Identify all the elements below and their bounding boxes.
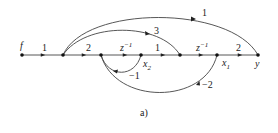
gain-n2-x2: z−1 [120, 42, 132, 53]
signal-flow-graph: f x2 x1 y 1 2 z−1 1 z−1 2 1 3 −1 −2 a) [0, 0, 278, 133]
node-label-x1: x1 [222, 58, 230, 71]
z-exponent: −1 [124, 41, 132, 49]
gain-n4-x1: z−1 [196, 42, 208, 53]
node-y [256, 53, 260, 57]
gain-x1-y: 2 [236, 43, 241, 53]
arc-x1-n2 [101, 55, 217, 93]
graph-canvas [0, 0, 278, 133]
node-x2 [139, 53, 143, 57]
z-exponent: −1 [200, 41, 208, 49]
x2-subscript: 2 [147, 64, 151, 72]
gain-n1-n4: 3 [154, 26, 159, 36]
node-label-f: f [20, 41, 23, 51]
gain-n1-y: 1 [202, 8, 207, 18]
arrow-icon [113, 70, 118, 74]
gain-n1-n2: 2 [86, 43, 91, 53]
node-label-y: y [255, 59, 259, 69]
arrow-icon [145, 31, 150, 36]
gain-f-n1: 1 [42, 43, 47, 53]
node-n4 [178, 53, 182, 57]
arc-n1-y [63, 18, 258, 56]
gain-x2-n2-feedback: −1 [129, 71, 140, 81]
gain-x2-n4: 1 [155, 43, 160, 53]
node-n2 [99, 53, 103, 57]
node-n1 [61, 53, 65, 57]
node-x1 [215, 53, 219, 57]
node-label-x2: x2 [143, 59, 151, 72]
gain-x1-n2-feedback: −2 [202, 80, 213, 90]
figure-caption: a) [140, 108, 148, 118]
node-f [20, 53, 24, 57]
x1-subscript: 1 [226, 63, 230, 71]
